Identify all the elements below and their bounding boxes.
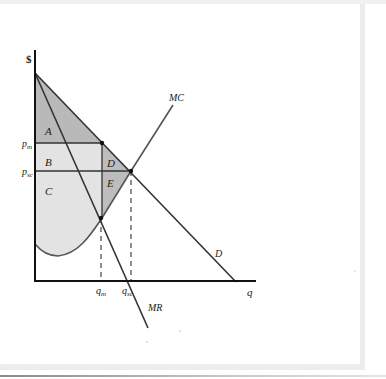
competitive-point [129, 169, 133, 173]
p-m-label: pm [21, 138, 32, 151]
monopoly-point [100, 141, 104, 145]
speck [179, 330, 180, 331]
mr-curve-label: MR [147, 302, 162, 313]
mc-curve-label: MC [168, 92, 184, 103]
x-axis-label: q [247, 286, 253, 298]
region-d-label: D [106, 157, 115, 169]
y-axis-label: $ [26, 53, 32, 65]
speck [146, 341, 147, 342]
region-e-label: E [106, 177, 114, 189]
monopoly-welfare-chart: $ q pm psc qm qsc A B C D E MC D MR [0, 0, 386, 379]
q-m-label: qm [96, 285, 106, 298]
speck [354, 270, 355, 271]
mr-mc-intersection-point [99, 216, 103, 220]
region-a-label: A [44, 125, 52, 137]
demand-curve-label: D [214, 248, 223, 259]
region-c-label: C [45, 185, 53, 197]
p-sc-label: psc [21, 166, 34, 179]
q-sc-label: qsc [122, 285, 134, 298]
region-b-label: B [45, 156, 52, 168]
